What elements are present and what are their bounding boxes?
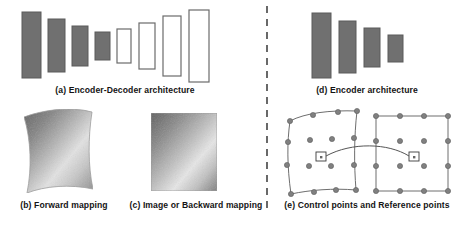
encoder-block-1 [22, 12, 41, 78]
caption-d: (d) Encoder architecture [272, 85, 462, 95]
mapping-arc [326, 146, 409, 156]
reference-point [397, 113, 402, 118]
control-point [307, 137, 312, 142]
caption-e: (e) Control points and Reference points [268, 200, 466, 210]
reference-point [373, 188, 378, 193]
reference-point [445, 113, 450, 118]
caption-b: (b) Forward mapping [0, 200, 128, 210]
control-point [333, 187, 338, 192]
control-point [311, 189, 316, 194]
control-point [353, 187, 358, 192]
control-point [335, 109, 340, 114]
reference-point [421, 188, 426, 193]
reference-points-grid [373, 113, 450, 193]
control-point [310, 112, 315, 117]
reference-point [397, 188, 402, 193]
control-point [285, 139, 290, 144]
encoder-only-block-1 [312, 13, 331, 78]
reference-point [421, 163, 426, 168]
control-points-grid [284, 108, 359, 196]
panel-encoder-decoder [22, 10, 209, 82]
caption-c: (c) Image or Backward mapping [128, 200, 264, 210]
panel-forward-mapping [24, 109, 93, 193]
decoder-block-group [117, 10, 209, 82]
control-point [351, 162, 356, 167]
control-point [328, 163, 333, 168]
control-point [287, 118, 292, 123]
encoder-block-group [22, 12, 110, 78]
control-point [288, 191, 293, 196]
control-point [354, 108, 359, 113]
panel-encoder [312, 13, 403, 78]
decoder-block-1 [117, 29, 131, 63]
reference-point-marker-dot [413, 156, 415, 158]
source-image-rect [151, 113, 217, 191]
panel-backward-mapping [151, 113, 217, 191]
caption-a: (a) Encoder-Decoder architecture [0, 85, 250, 95]
encoder-only-block-3 [364, 28, 380, 67]
encoder-only-block-2 [339, 21, 356, 73]
decoder-block-2 [139, 23, 155, 69]
warped-image-shape [24, 109, 93, 193]
reference-point [373, 113, 378, 118]
reference-point [373, 138, 378, 143]
decoder-block-4 [189, 10, 209, 82]
encoder-block-4 [95, 32, 110, 60]
reference-point [445, 163, 450, 168]
reference-point [421, 138, 426, 143]
encoder-block-3 [72, 26, 88, 66]
encoder-block-2 [48, 19, 65, 72]
control-point [351, 135, 356, 140]
reference-point [421, 113, 426, 118]
figure-root [0, 0, 466, 228]
reference-point [445, 188, 450, 193]
reference-point [445, 138, 450, 143]
reference-point [397, 138, 402, 143]
control-point [329, 136, 334, 141]
reference-point [373, 163, 378, 168]
control-point [306, 163, 311, 168]
panel-control-reference-points [284, 108, 450, 196]
control-point [284, 162, 289, 167]
reference-point [397, 163, 402, 168]
control-point-marker-dot [320, 156, 322, 158]
encoder-only-block-4 [388, 35, 403, 62]
decoder-block-3 [163, 16, 181, 76]
